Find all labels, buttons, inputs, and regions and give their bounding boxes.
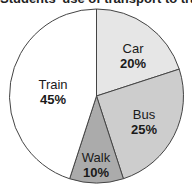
svg-text:25%: 25%: [131, 122, 157, 137]
slice-label-train: Train 45%: [38, 77, 67, 107]
slice-label-car: Car 20%: [120, 41, 146, 71]
svg-text:Car: Car: [123, 41, 145, 56]
svg-text:10%: 10%: [83, 165, 109, 180]
svg-text:Train: Train: [38, 77, 67, 92]
svg-text:Walk: Walk: [82, 150, 111, 165]
svg-text:Bus: Bus: [133, 107, 156, 122]
svg-text:20%: 20%: [120, 56, 146, 71]
svg-text:45%: 45%: [40, 92, 66, 107]
slice-label-bus: Bus 25%: [131, 107, 157, 137]
slice-label-walk: Walk 10%: [82, 150, 111, 180]
pie-chart: Car 20% Bus 25% Walk 10% Train 45%: [0, 0, 192, 191]
